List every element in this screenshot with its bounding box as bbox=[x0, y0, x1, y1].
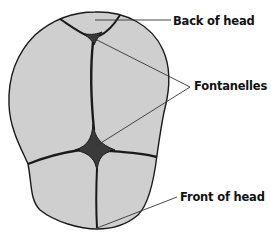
fontanelles-label: Fontanelles bbox=[194, 81, 267, 93]
metopic-suture bbox=[96, 168, 97, 228]
skull-outline bbox=[9, 12, 169, 229]
front-of-head-label: Front of head bbox=[180, 192, 265, 204]
skull-illustration bbox=[0, 0, 271, 241]
back-of-head-label: Back of head bbox=[173, 16, 254, 28]
fontanelle-diagram: Back of head Fontanelles Front of head bbox=[0, 0, 271, 241]
